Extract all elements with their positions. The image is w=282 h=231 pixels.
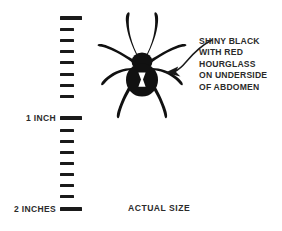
callout-line-3: HOURGLASS	[199, 59, 281, 70]
leg-front-right	[144, 12, 158, 58]
arrow-head	[165, 66, 180, 76]
ruler-tick-3	[60, 50, 74, 53]
callout-line-4: ON UNDERSIDE	[199, 70, 281, 81]
callout-text-block: SHINY BLACK WITH RED HOURGLASS ON UNDERS…	[199, 36, 281, 93]
ruler-tick-9	[60, 129, 74, 132]
ruler-tick-14	[60, 184, 74, 187]
ruler-tick-8	[60, 116, 82, 120]
ruler-tick-16	[60, 207, 82, 211]
ruler-tick-12	[60, 162, 74, 165]
ruler-label-2-inches: 2 INCHES	[0, 204, 56, 214]
ruler-tick-5	[60, 73, 74, 76]
callout-line-2: WITH RED	[199, 47, 281, 58]
ruler-tick-2	[60, 39, 74, 42]
ruler-tick-10	[60, 140, 74, 143]
ruler-label-1-inch: 1 INCH	[0, 113, 56, 123]
ruler-tick-4	[60, 61, 74, 64]
leg-front-left	[126, 12, 140, 58]
black-widow-identification-figure: 1 INCH 2 INCHES	[0, 0, 282, 231]
callout-line-5: OF ABDOMEN	[199, 82, 281, 93]
ruler-tick-0	[60, 16, 82, 20]
ruler-tick-13	[60, 173, 74, 176]
ruler-tick-15	[60, 195, 74, 198]
ruler-tick-1	[60, 28, 74, 31]
callout-line-1: SHINY BLACK	[199, 36, 281, 47]
ruler-tick-7	[60, 95, 74, 98]
actual-size-caption: ACTUAL SIZE	[128, 203, 190, 213]
ruler-tick-6	[60, 84, 74, 87]
leg-second-left	[98, 44, 136, 65]
inch-ruler: 1 INCH 2 INCHES	[0, 0, 96, 231]
ruler-tick-11	[60, 151, 74, 154]
